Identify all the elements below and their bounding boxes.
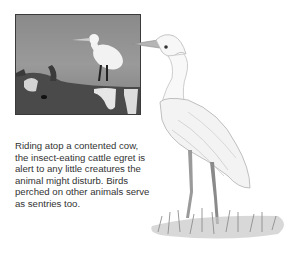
egret-on-cow-photo — [15, 14, 141, 115]
photo-egret-on-cow-icon — [16, 15, 141, 115]
egret-drawing-icon — [128, 20, 289, 257]
egret-illustration — [128, 20, 289, 257]
caption-text: Riding atop a contented cow, the insect-… — [15, 140, 150, 210]
